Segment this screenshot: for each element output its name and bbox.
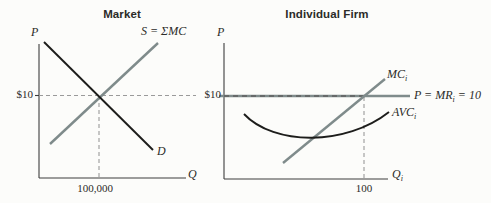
firm-mr-label: P = MRi = 10 xyxy=(414,89,481,101)
firm-mr-label-post: = 10 xyxy=(455,88,481,102)
firm-mc-curve xyxy=(283,79,385,163)
market-demand-label: D xyxy=(157,145,166,157)
firm-mr-label-pre: P = MR xyxy=(414,88,453,102)
economics-figure: Market P Q S = ΣMC D $10 100,000 Individ… xyxy=(0,0,491,203)
firm-mc-label-base: MC xyxy=(387,67,405,81)
market-supply-label: S = ΣMC xyxy=(141,25,186,37)
market-quantity-value: 100,000 xyxy=(65,183,125,194)
firm-avc-label-sub: i xyxy=(414,112,416,121)
firm-quantity-value: 100 xyxy=(344,183,384,194)
market-y-axis-label: P xyxy=(31,26,38,38)
firm-avc-label-base: AVC xyxy=(392,105,414,119)
market-supply-curve xyxy=(50,43,158,144)
market-panel-title: Market xyxy=(77,9,167,21)
firm-avc-label: AVCi xyxy=(392,106,416,118)
firm-x-axis-label-sub: i xyxy=(401,174,403,183)
firm-mc-label-sub: i xyxy=(405,74,407,83)
firm-x-axis-label-base: Q xyxy=(392,167,401,181)
market-price-value: $10 xyxy=(6,89,33,100)
firm-y-axis-label: P xyxy=(217,26,224,38)
firm-panel-title: Individual Firm xyxy=(281,9,373,21)
firm-price-value: $10 xyxy=(194,89,221,100)
firm-x-axis-label: Qi xyxy=(392,168,403,180)
firm-mc-label: MCi xyxy=(387,68,407,80)
market-x-axis-label: Q xyxy=(188,168,197,180)
